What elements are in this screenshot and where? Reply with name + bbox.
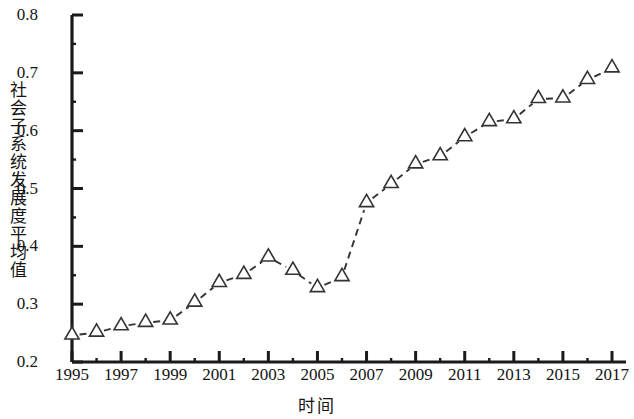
x-axis-tick-label: 2009 — [388, 366, 444, 384]
x-axis-tick-label: 1997 — [93, 366, 149, 384]
x-axis-tick-label: 2015 — [535, 366, 591, 384]
x-axis-tick-label: 1999 — [142, 366, 198, 384]
x-axis-tick-label: 2013 — [486, 366, 542, 384]
x-axis-tick-label: 2011 — [437, 366, 493, 384]
x-axis-tick-label: 2005 — [289, 366, 345, 384]
chart-container: 社会子系统发展度平均值 0.20.30.40.50.60.70.8 1995: … — [0, 0, 634, 419]
x-axis-tick-label: 1995 — [44, 366, 100, 384]
x-axis-title: 时间 — [0, 392, 634, 417]
x-axis-tick-label: 2007 — [339, 366, 395, 384]
x-axis-tick-label: 2003 — [240, 366, 296, 384]
x-axis-tick-labels: 1995199719992001200320052007200920112013… — [0, 0, 634, 419]
x-axis-tick-label: 2017 — [584, 366, 634, 384]
x-axis-tick-label: 2001 — [191, 366, 247, 384]
